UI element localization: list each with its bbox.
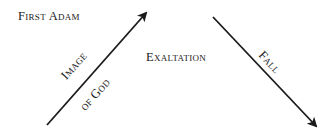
first-adam-label: First Adam	[18, 9, 80, 24]
diagram-canvas: First Adam Exaltation Image of God Fall	[0, 0, 334, 139]
exaltation-label: Exaltation	[146, 50, 206, 65]
fall-arrow	[213, 17, 316, 126]
